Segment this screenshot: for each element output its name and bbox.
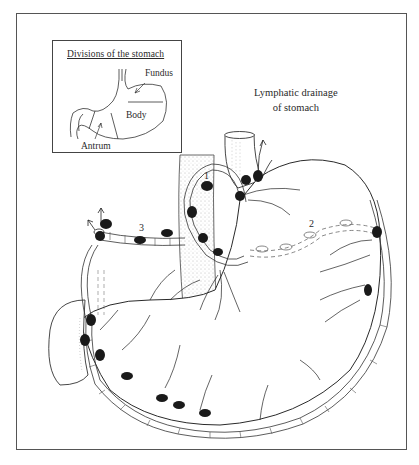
figure-title-line2: of stomach (254, 100, 338, 115)
node-group-3-label: 3 (139, 222, 144, 233)
figure-title: Lymphatic drainage of stomach (254, 85, 338, 115)
label-fundus: Fundus (145, 68, 173, 78)
stomach-outline (80, 160, 381, 425)
figure-title-line1: Lymphatic drainage (254, 85, 338, 100)
node-group-2-label: 2 (309, 218, 314, 229)
node-group-1-label: 1 (204, 170, 209, 181)
label-antrum: Antrum (81, 141, 111, 151)
inset-divisions-of-stomach: Divisions of the stomach Fundus Body Ant… (52, 40, 182, 153)
label-body: Body (126, 110, 147, 120)
inset-stomach-sketch (53, 41, 183, 154)
